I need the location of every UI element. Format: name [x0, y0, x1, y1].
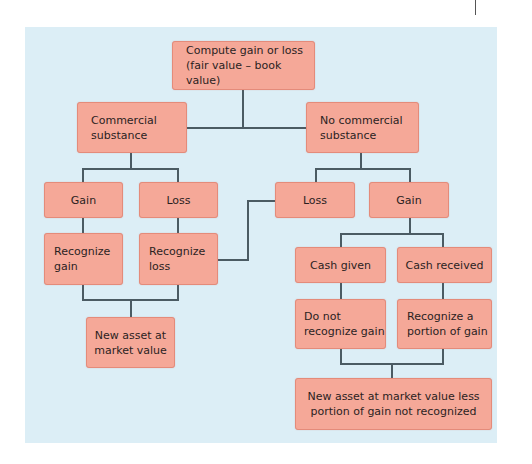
node-cs-gain: Gain [44, 182, 123, 218]
node-cash-received: Cash received [397, 247, 492, 283]
node-compute-gain-loss: Compute gain or loss (fair value – book … [172, 41, 315, 90]
node-ncs-gain: Gain [369, 182, 449, 218]
node-recognize-gain: Recognize gain [44, 233, 123, 285]
node-label: Recognize a portion of gain [407, 309, 488, 339]
connector-cs-join [83, 285, 178, 300]
connector-commercial-branch [83, 169, 178, 182]
node-label: Commercial substance [91, 113, 157, 143]
node-label: Loss [303, 193, 327, 208]
connector-ncs-join [341, 349, 443, 364]
node-label: Cash received [406, 258, 484, 273]
node-cash-given: Cash given [295, 247, 386, 283]
node-new-asset-less-portion: New asset at market value less portion o… [295, 378, 492, 430]
connector-ncs-branch [316, 169, 410, 182]
node-label: Loss [166, 193, 190, 208]
node-label: Gain [396, 193, 421, 208]
node-label: New asset at market value less portion o… [307, 389, 479, 419]
node-label: Recognize gain [54, 244, 110, 274]
connector-ncs-loss-to-recognize-loss [218, 201, 275, 260]
node-ncs-loss: Loss [275, 182, 355, 218]
connector-cash-branch [341, 234, 443, 247]
node-label: No commercial substance [320, 113, 403, 143]
node-label: Gain [71, 193, 96, 208]
node-label: Compute gain or loss (fair value – book … [186, 43, 314, 88]
node-do-not-recognize-gain: Do not recognize gain [295, 299, 386, 349]
node-label: Do not recognize gain [304, 309, 385, 339]
node-recognize-portion-of-gain: Recognize a portion of gain [397, 299, 492, 349]
node-cs-loss: Loss [139, 182, 218, 218]
node-label: Recognize loss [149, 244, 205, 274]
node-no-commercial-substance: No commercial substance [306, 102, 419, 153]
node-commercial-substance: Commercial substance [77, 102, 187, 153]
node-new-asset-market-value: New asset at market value [86, 317, 175, 368]
node-recognize-loss: Recognize loss [139, 233, 218, 285]
node-label: Cash given [310, 258, 371, 273]
node-label: New asset at market value [94, 328, 167, 358]
